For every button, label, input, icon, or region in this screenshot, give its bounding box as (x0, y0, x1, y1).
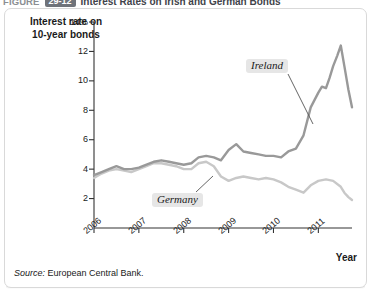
callout-label-ireland: Ireland (246, 59, 288, 73)
y-tick-label: 8 (83, 106, 88, 115)
figure-container: FIGURE 29-12 Interest Rates on Irish and… (0, 0, 371, 292)
callout-label-germany: Germany (152, 193, 203, 207)
source-note: Source: European Central Bank. (14, 268, 144, 278)
figure-number-badge: 29-12 (45, 0, 76, 7)
y-tick-label: 2 (83, 194, 88, 203)
y-tick-label: 12 (78, 47, 88, 56)
x-axis-title: Year (336, 252, 357, 263)
y-axis-title-line2: 10-year bonds (14, 29, 118, 42)
y-tick-label: 10 (78, 76, 88, 85)
y-axis-title-line1: Interest rate on (14, 16, 118, 29)
figure-header: FIGURE 29-12 Interest Rates on Irish and… (0, 0, 371, 8)
y-tick-label: 6 (83, 135, 88, 144)
figure-card (4, 8, 367, 288)
y-tick-label: 14% (70, 18, 88, 27)
y-axis-title: Interest rate on 10-year bonds (14, 16, 118, 41)
source-prefix: Source: (14, 268, 45, 278)
source-text: European Central Bank. (48, 268, 144, 278)
figure-label: FIGURE (3, 0, 40, 7)
figure-title: Interest Rates on Irish and German Bonds (81, 0, 281, 7)
y-tick-label: 4 (83, 165, 88, 174)
